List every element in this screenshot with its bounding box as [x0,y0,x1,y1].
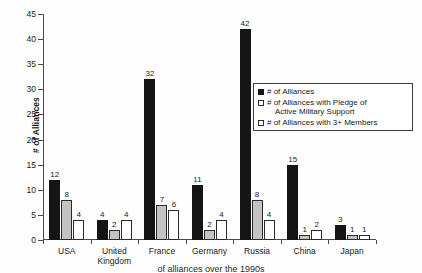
x-axis-category-label: Germany [186,246,234,256]
bar [264,220,275,240]
bar-value-label: 3 [332,216,349,224]
y-axis-tick-label: 30 [10,85,36,93]
bar-value-label: 4 [118,211,135,219]
y-axis-tick-label: 35 [10,60,36,68]
bar-group: 1124 [192,14,227,240]
bar-value-label: 11 [189,176,206,184]
bar-value-label: 2 [308,221,325,229]
x-axis-category-label: Japan [328,246,376,256]
x-axis-category-label: China [281,246,329,256]
legend-swatch-icon [258,89,264,95]
figure-caption: of alliances over the 1990s [0,264,422,273]
bar [299,235,310,240]
x-axis-tick [376,240,377,244]
bar [156,205,167,240]
x-axis-category-label: United Kingdom [91,246,139,266]
bar-value-label: 6 [165,201,182,209]
bar [168,210,179,240]
chart-legend: # of Alliances # of Alliances with Pledg… [253,83,413,131]
y-axis-tick-label: 20 [10,136,36,144]
legend-swatch-icon [258,120,264,126]
bar [311,230,322,240]
legend-item: # of Alliances [258,87,408,97]
bar-group: 3276 [144,14,179,240]
y-axis-tick [38,165,43,166]
bar-value-label: 8 [249,191,266,199]
x-axis-tick [328,240,329,244]
x-axis-tick [138,240,139,244]
bar [216,220,227,240]
x-axis-tick [91,240,92,244]
y-axis-tick-label: 5 [10,211,36,219]
bar-value-label: 42 [237,20,254,28]
legend-item: # of Alliances with 3+ Members [258,118,408,128]
y-axis-tick [38,190,43,191]
x-axis-category-label: France [138,246,186,256]
y-axis-tick-label: 45 [10,10,36,18]
bar [252,200,263,240]
y-axis-tick-label: 25 [10,110,36,118]
y-axis-tick [38,64,43,65]
bar-value-label: 15 [284,156,301,164]
bar-value-label: 4 [213,211,230,219]
x-axis-category-label: Russia [233,246,281,256]
legend-label: # of Alliances with 3+ Members [267,118,378,128]
bar [347,235,358,240]
bar [109,230,120,240]
bar [49,180,60,240]
x-axis-tick [186,240,187,244]
y-axis-tick-label: 40 [10,35,36,43]
bar [73,220,84,240]
bar-value-label: 1 [356,226,373,234]
bar-value-label: 12 [46,171,63,179]
bar-value-label: 32 [141,70,158,78]
bar-group: 424 [97,14,132,240]
bar-value-label: 8 [58,191,75,199]
y-axis-tick-label: 15 [10,161,36,169]
y-axis-tick [38,89,43,90]
legend-item: # of Alliances with Pledge of Active Mil… [258,98,408,117]
bar [61,200,72,240]
bar-value-label: 4 [94,211,111,219]
x-axis-tick [233,240,234,244]
bar [204,230,215,240]
y-axis-tick [38,140,43,141]
bar [359,235,370,240]
bar [192,185,203,240]
legend-label: # of Alliances with Pledge of Active Mil… [267,98,367,117]
x-axis-tick [281,240,282,244]
y-axis-tick [38,39,43,40]
x-axis-category-label: USA [43,246,91,256]
bar [144,79,155,240]
y-axis-tick [38,114,43,115]
bar [121,220,132,240]
bar [240,29,251,240]
y-axis-line [43,14,44,240]
bar-group: 1284 [49,14,84,240]
bar-value-label: 4 [261,211,278,219]
y-axis-tick-label: 0 [10,236,36,244]
legend-label: # of Alliances [267,87,314,97]
bar-chart: # of Alliances 051015202530354045 128442… [0,0,422,273]
y-axis-tick [38,215,43,216]
y-axis-tick [38,14,43,15]
bar-value-label: 4 [70,211,87,219]
y-axis-tick-label: 10 [10,186,36,194]
legend-swatch-icon [258,100,264,106]
x-axis-tick [43,240,44,244]
